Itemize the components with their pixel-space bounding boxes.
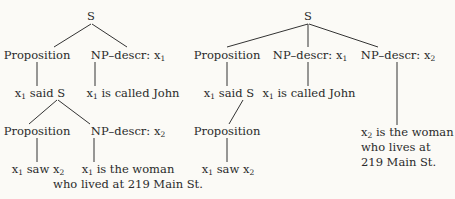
right-saw-node: x1 saw x2 bbox=[202, 163, 254, 179]
left-np-descr-x1-node: NP–descr: x1 bbox=[91, 49, 165, 65]
right-proposition-2-node: Proposition bbox=[194, 125, 261, 138]
left-said-node: x1 said S bbox=[15, 87, 65, 103]
left-root-node: S bbox=[87, 10, 95, 23]
right-proposition-node: Proposition bbox=[194, 49, 261, 62]
left-proposition-2-node: Proposition bbox=[4, 125, 71, 138]
left-called-john-node: x1 is called John bbox=[87, 87, 180, 103]
right-np-descr-x2-node: NP–descr: x2 bbox=[361, 49, 435, 65]
left-np-descr-x2-node: NP–descr: x2 bbox=[91, 125, 165, 141]
right-np-descr-x1-node: NP–descr: x1 bbox=[273, 49, 347, 65]
right-woman-line2: who lives at bbox=[361, 140, 431, 155]
left-woman-line2: who lived at 219 Main St. bbox=[53, 178, 203, 191]
right-woman-line3: 219 Main St. bbox=[361, 155, 436, 170]
left-proposition-node: Proposition bbox=[4, 49, 71, 62]
right-root-node: S bbox=[304, 10, 312, 23]
right-called-john-node: x1 is called John bbox=[263, 87, 356, 103]
right-said-node: x1 said S bbox=[204, 87, 254, 103]
